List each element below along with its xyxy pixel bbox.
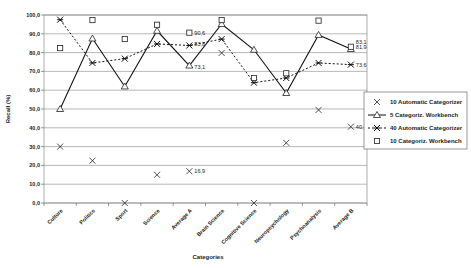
x-tick-label: Brain Science: [195, 207, 225, 237]
x-marker-icon: [283, 140, 289, 146]
data-label: 73,6: [356, 62, 367, 68]
square-marker-icon: [374, 138, 379, 143]
data-point-series-2: [316, 60, 322, 66]
x-marker-icon: [89, 158, 95, 164]
x-tick-label: Science: [142, 207, 161, 226]
square-marker-icon: [90, 17, 95, 22]
asterisk-marker-icon: [122, 56, 128, 62]
data-point-series-0: [316, 107, 322, 113]
data-point-series-0: [154, 172, 160, 178]
square-marker-icon: [58, 45, 63, 50]
square-marker-icon: [154, 22, 159, 27]
asterisk-marker-icon: [186, 42, 192, 48]
asterisk-marker-icon: [154, 41, 160, 47]
triangle-marker-icon: [315, 31, 322, 37]
x-marker-icon: [219, 50, 225, 56]
square-marker-icon: [316, 18, 321, 23]
x-axis-ticks: CulturePoliticsSportScienceAverage ABrai…: [44, 203, 367, 245]
data-point-series-3: [90, 17, 95, 22]
series-line-1: [60, 24, 351, 109]
square-marker-icon: [122, 36, 127, 41]
data-point-series-3: [154, 22, 159, 27]
square-marker-icon: [187, 30, 192, 35]
x-tick-label: Psychoanalysis: [289, 207, 322, 240]
legend: 10 Automatic Categorizer5 Categoriz. Wor…: [364, 92, 467, 149]
data-point-series-0: [348, 124, 354, 130]
x-tick-label: Neuropsychology: [253, 207, 291, 245]
asterisk-marker-icon: [219, 36, 225, 42]
y-tick-label: 50,0: [29, 106, 40, 112]
data-point-series-3: [58, 45, 63, 50]
y-tick-label: 0,0: [32, 200, 40, 206]
data-point-series-2: [122, 56, 128, 62]
triangle-marker-icon: [154, 27, 161, 33]
x-marker-icon: [348, 124, 354, 130]
data-point-series-3: [348, 44, 353, 49]
legend-label: 5 Categoriz. Workbench: [390, 112, 459, 118]
data-label: 83,8: [194, 41, 205, 47]
triangle-marker-icon: [89, 35, 96, 41]
legend-label: 10 Automatic Categorizer: [390, 99, 463, 105]
data-point-series-2: [186, 42, 192, 48]
legend-marker: [374, 138, 379, 143]
asterisk-marker-icon: [316, 60, 322, 66]
data-point-series-0: [283, 140, 289, 146]
data-point-series-3: [122, 36, 127, 41]
y-tick-label: 60,0: [29, 87, 40, 93]
x-tick-label: Sport: [114, 207, 129, 222]
data-point-series-3: [316, 18, 321, 23]
data-point-series-3: [284, 71, 289, 76]
y-tick-label: 30,0: [29, 144, 40, 150]
asterisk-marker-icon: [57, 17, 63, 23]
grid-lines: [44, 15, 367, 203]
triangle-marker-icon: [57, 106, 64, 112]
data-point-series-2: [57, 17, 63, 23]
data-point-series-1: [315, 31, 322, 37]
x-marker-icon: [316, 107, 322, 113]
asterisk-marker-icon: [89, 60, 95, 66]
x-marker-icon: [186, 168, 192, 174]
data-label: 81,9: [356, 44, 367, 50]
y-tick-label: 70,0: [29, 68, 40, 74]
data-point-series-1: [154, 27, 161, 33]
data-point-series-1: [57, 106, 64, 112]
data-label: 83,1: [356, 39, 367, 45]
y-axis-ticks: 0,010,020,030,040,050,060,070,080,090,01…: [26, 12, 44, 206]
x-tick-label: Culture: [46, 207, 64, 225]
data-point-series-2: [348, 62, 354, 68]
data-point-series-2: [89, 60, 95, 66]
square-marker-icon: [251, 75, 256, 80]
data-point-series-3: [219, 17, 224, 22]
x-tick-label: Average A: [170, 207, 193, 230]
data-point-series-1: [89, 35, 96, 41]
data-label: 16,9: [194, 168, 205, 174]
y-tick-label: 90,0: [29, 31, 40, 37]
y-tick-label: 80,0: [29, 50, 40, 56]
line-chart: 0,010,020,030,040,050,060,070,080,090,01…: [0, 0, 471, 268]
legend-label: 10 Categoriz. Workbench: [390, 138, 462, 144]
y-axis-label: Recall (%): [5, 95, 11, 124]
y-tick-label: 20,0: [29, 162, 40, 168]
x-tick-label: Politics: [78, 207, 96, 225]
data-point-series-0: [186, 168, 192, 174]
y-tick-label: 40,0: [29, 125, 40, 131]
data-point-series-3: [251, 75, 256, 80]
data-point-series-0: [89, 158, 95, 164]
data-label: 73,1: [194, 64, 205, 70]
square-marker-icon: [284, 71, 289, 76]
data-point-series-1: [121, 83, 128, 89]
asterisk-marker-icon: [348, 62, 354, 68]
x-tick-label: Average B: [331, 207, 354, 230]
triangle-marker-icon: [121, 83, 128, 89]
series-line-2: [60, 20, 351, 83]
data-point-series-2: [154, 41, 160, 47]
data-point-series-0: [219, 50, 225, 56]
data-label: 90,6: [194, 30, 205, 36]
x-marker-icon: [154, 172, 160, 178]
square-marker-icon: [348, 44, 353, 49]
data-point-series-3: [187, 30, 192, 35]
x-tick-label: Cognitive Science: [220, 207, 258, 245]
y-tick-label: 10,0: [29, 181, 40, 187]
data-point-series-2: [219, 36, 225, 42]
x-axis-label: Categories: [192, 254, 224, 260]
